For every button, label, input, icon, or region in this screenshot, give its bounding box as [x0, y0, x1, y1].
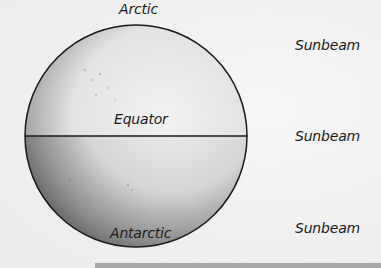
sunbeam-label-top: Sunbeam [295, 37, 360, 53]
bottom-divider-bar [95, 263, 381, 268]
sunbeam-label-middle: Sunbeam [295, 128, 360, 144]
sunbeam-label-bottom: Sunbeam [295, 220, 360, 236]
equator-label: Equator [114, 111, 168, 127]
arctic-label: Arctic [119, 1, 158, 17]
antarctic-label: Antarctic [110, 225, 171, 241]
